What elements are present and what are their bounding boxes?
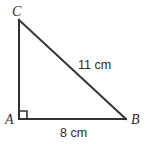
vertex-label-a: A <box>4 112 14 127</box>
right-angle-marker-icon <box>19 111 27 119</box>
triangle-figure: C A B 11 cm 8 cm <box>0 0 148 144</box>
vertex-label-b: B <box>131 112 140 127</box>
side-label-ab: 8 cm <box>60 126 87 140</box>
side-label-cb: 11 cm <box>78 58 111 72</box>
triangle-canvas: C A B 11 cm 8 cm <box>0 0 148 144</box>
vertex-label-c: C <box>12 4 22 19</box>
